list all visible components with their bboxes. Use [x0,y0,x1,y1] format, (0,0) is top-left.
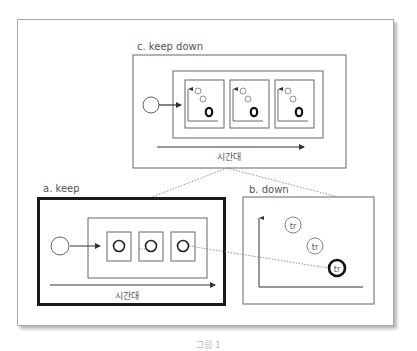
bold-circle-icon [251,108,257,116]
tr-label: tr [334,265,341,274]
circle-icon [240,88,246,94]
figure-caption: 그림 1 [0,338,417,351]
frame-3 [171,232,195,261]
circle-icon [245,96,251,102]
tr-label: tr [290,222,297,231]
circle-icon [114,241,125,252]
circle-icon [200,96,206,102]
panel-a-inner-box [88,218,207,278]
panel-c-title: c. keep down [137,41,203,52]
circle-icon [178,241,189,252]
time-axis-label: 시간대 [217,152,241,162]
mini-chart-3 [275,80,314,128]
source-circle-icon [51,237,69,255]
tr-label: tr [312,243,319,252]
panel-b-title: b. down [249,184,289,195]
connector-line-to-a [152,168,227,197]
panel-down-bold: tr [329,260,345,276]
bold-circle-icon [296,108,302,116]
circle-icon [195,88,201,94]
circle-icon [146,241,157,252]
mini-chart-2 [230,80,269,128]
panel-keep-down: c. keep down [133,41,346,168]
frame-1 [107,232,131,261]
circle-icon [290,96,296,102]
mini-chart-1 [185,80,224,128]
panel-keep: a. keep 시간대 [39,183,225,305]
source-circle-icon [143,97,159,113]
time-axis-label: 시간대 [115,291,139,301]
circle-icon [285,88,291,94]
panel-down: b. down tr tr [243,184,374,304]
panel-a-title: a. keep [43,183,80,194]
frame-2 [139,232,163,261]
bold-circle-icon [206,108,212,116]
